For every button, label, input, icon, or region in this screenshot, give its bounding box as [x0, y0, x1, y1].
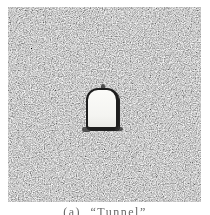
tunnel-right-foot — [115, 127, 123, 131]
tunnel-shape — [86, 88, 119, 130]
figure-panel: (a) “Tunnel” — [0, 0, 210, 215]
subfigure-caption: (a) “Tunnel” — [0, 206, 210, 215]
noisy-image — [8, 7, 201, 202]
tunnel-left-foot — [82, 127, 90, 132]
